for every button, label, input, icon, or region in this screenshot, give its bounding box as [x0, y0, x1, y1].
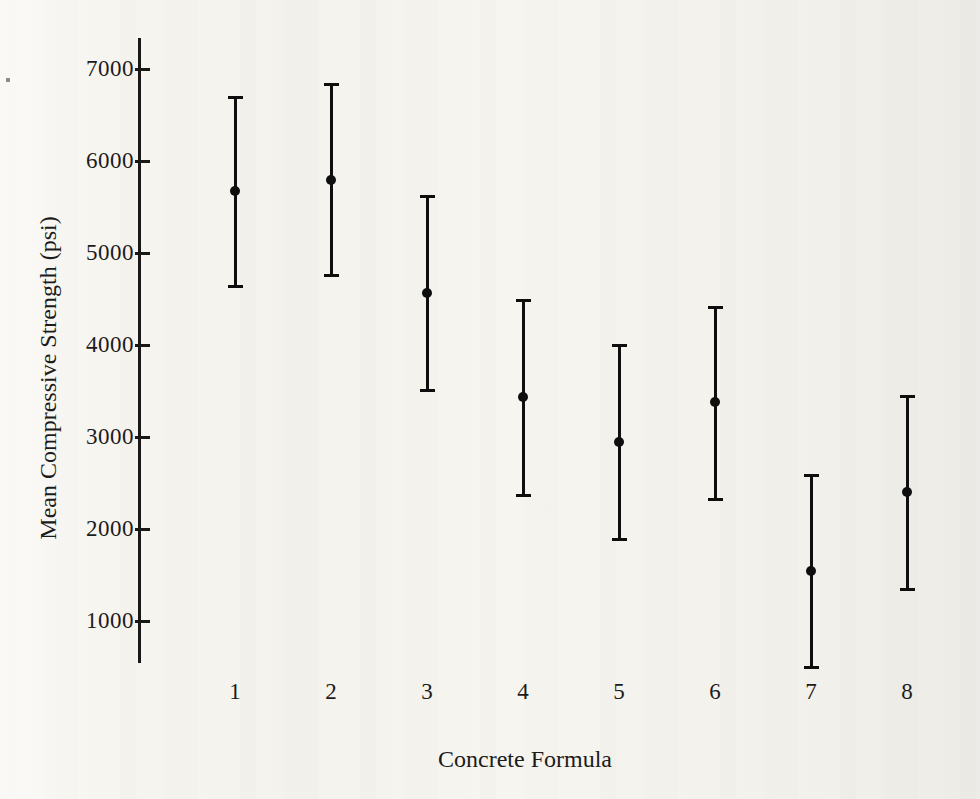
x-axis-tick-label: 7 [789, 678, 833, 706]
error-bar-upper-cap [612, 344, 627, 347]
mean-point-dot [230, 186, 240, 196]
y-axis-tick-label: 4000 [58, 331, 134, 359]
interval-plot-figure: Mean Compressive Strength (psi) Concrete… [0, 0, 980, 799]
x-axis-tick-label: 6 [693, 678, 737, 706]
mean-point-dot [710, 397, 720, 407]
x-axis-title: Concrete Formula [375, 744, 675, 774]
mean-point-dot [902, 487, 912, 497]
error-bar-upper-cap [516, 299, 531, 302]
mean-point-dot [614, 437, 624, 447]
mean-point-dot [422, 288, 432, 298]
y-axis-tick [135, 68, 150, 71]
y-axis-tick-label: 6000 [58, 147, 134, 175]
y-axis-tick [135, 252, 150, 255]
y-axis-tick [135, 344, 150, 347]
y-axis-tick [135, 436, 150, 439]
error-bar-upper-cap [324, 83, 339, 86]
x-axis-tick-label: 5 [597, 678, 641, 706]
error-bar-upper-cap [420, 195, 435, 198]
error-bar-lower-cap [516, 494, 531, 497]
y-axis-tick-label: 7000 [58, 55, 134, 83]
y-axis-tick [135, 160, 150, 163]
y-axis-tick-label: 1000 [58, 607, 134, 635]
scan-speck-artifact [6, 78, 10, 82]
error-bar-upper-cap [804, 474, 819, 477]
mean-point-dot [326, 175, 336, 185]
y-axis-tick-label: 5000 [58, 239, 134, 267]
y-axis-line [138, 38, 141, 663]
y-axis-tick [135, 620, 150, 623]
error-bar-lower-cap [804, 666, 819, 669]
error-bar-lower-cap [420, 389, 435, 392]
error-bar-upper-cap [900, 395, 915, 398]
mean-point-dot [518, 392, 528, 402]
x-axis-tick-label: 3 [405, 678, 449, 706]
error-bar-upper-cap [708, 306, 723, 309]
y-axis-tick-label: 2000 [58, 515, 134, 543]
x-axis-tick-label: 1 [213, 678, 257, 706]
error-bar-lower-cap [900, 588, 915, 591]
error-bar-lower-cap [612, 538, 627, 541]
error-bar-lower-cap [324, 274, 339, 277]
x-axis-tick-label: 4 [501, 678, 545, 706]
y-axis-tick [135, 528, 150, 531]
x-axis-tick-label: 8 [885, 678, 929, 706]
error-bar-lower-cap [708, 498, 723, 501]
mean-point-dot [806, 566, 816, 576]
y-axis-tick-label: 3000 [58, 423, 134, 451]
x-axis-tick-label: 2 [309, 678, 353, 706]
error-bar-lower-cap [228, 285, 243, 288]
error-bar-upper-cap [228, 96, 243, 99]
